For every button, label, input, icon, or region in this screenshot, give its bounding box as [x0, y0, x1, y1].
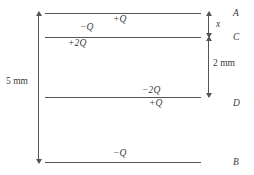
gap-2mm-arrowhead-top [206, 36, 212, 41]
parallel-plates-figure: A C D B +Q −Q +2Q −2Q +Q −Q 5 mm x 2 mm [0, 0, 254, 175]
gap-2mm-dimension-label: 2 mm [213, 58, 235, 68]
plate-label-b: B [233, 157, 239, 167]
overall-height-dimension-label: 5 mm [6, 76, 28, 86]
gap-x-arrowhead-top [206, 11, 212, 16]
gap-x-dimension-line [208, 16, 209, 34]
plate-label-c: C [233, 32, 239, 42]
plate-label-a: A [233, 8, 239, 18]
plate-c-top-charge: −Q [80, 22, 94, 32]
plate-label-d: D [233, 98, 240, 108]
plate-c-bottom-charge: +2Q [68, 38, 87, 48]
gap-2mm-arrowhead-bottom [206, 93, 212, 98]
plate-d-bottom-charge: +Q [149, 98, 163, 108]
plate-b-top-charge: −Q [113, 148, 127, 158]
plate-line-d [45, 97, 201, 98]
plate-line-b [45, 162, 201, 163]
overall-height-dimension-line [38, 15, 39, 160]
gap-x-dimension-label: x [216, 19, 220, 29]
overall-height-arrowhead-bottom [36, 159, 42, 164]
plate-a-bottom-charge: +Q [113, 14, 127, 24]
gap-2mm-dimension-line [208, 40, 209, 94]
overall-height-arrowhead-top [36, 11, 42, 16]
plate-d-top-charge: −2Q [142, 85, 161, 95]
